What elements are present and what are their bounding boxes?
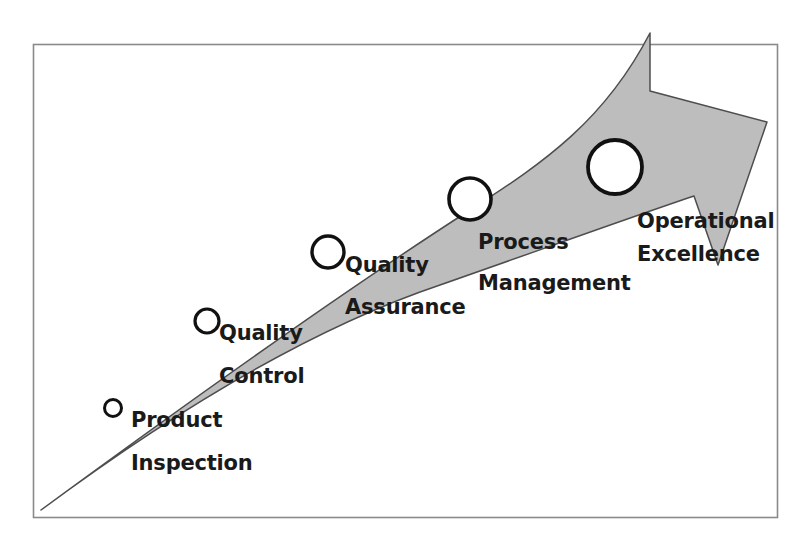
label-product-inspection-line2: Inspection bbox=[131, 451, 253, 475]
label-process-management-line1: Process bbox=[478, 230, 568, 254]
marker-operational-excellence[interactable] bbox=[588, 140, 642, 194]
label-quality-assurance-line2: Assurance bbox=[345, 295, 466, 319]
marker-process-management[interactable] bbox=[449, 178, 491, 220]
label-product-inspection-line1: Product bbox=[131, 408, 222, 432]
marker-quality-assurance[interactable] bbox=[312, 236, 344, 268]
diagram-canvas: Product Inspection Quality Control Quali… bbox=[0, 0, 803, 554]
label-process-management-line2: Management bbox=[478, 271, 631, 295]
label-operational-excellence-line2: Excellence bbox=[637, 242, 760, 266]
quality-maturity-diagram: Product Inspection Quality Control Quali… bbox=[0, 0, 803, 554]
label-operational-excellence-line1: Operational bbox=[637, 209, 774, 233]
marker-quality-control[interactable] bbox=[195, 309, 219, 333]
marker-product-inspection[interactable] bbox=[105, 400, 122, 417]
label-quality-assurance-line1: Quality bbox=[345, 253, 429, 277]
label-quality-control-line1: Quality bbox=[219, 321, 303, 345]
label-quality-control-line2: Control bbox=[219, 364, 304, 388]
